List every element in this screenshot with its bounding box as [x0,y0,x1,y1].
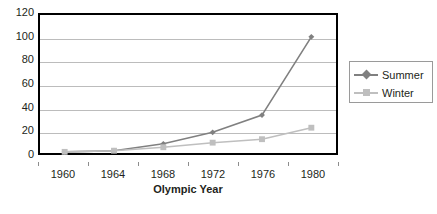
legend-marker-square-icon [354,87,378,99]
data-point-winter-1980 [308,125,314,131]
y-tick-label: 20 [4,125,34,136]
y-axis: 020406080100120 [0,13,34,155]
series-canvas [40,15,336,153]
legend-item-winter: Winter [350,84,432,102]
data-point-winter-1964 [111,148,117,154]
legend-item-summer: Summer [350,66,432,84]
x-tick-label: 1976 [235,168,291,181]
y-tick-label: 40 [4,102,34,113]
x-axis: 196019641968197219761980 [38,162,338,178]
x-tick-mark [288,162,289,166]
x-tick-label: 1980 [285,168,341,181]
data-point-winter-1968 [160,144,166,150]
y-tick-label: 0 [4,149,34,160]
x-tick-label: 1968 [135,168,191,181]
x-tick-mark [38,162,39,166]
x-tick-label: 1960 [35,168,91,181]
line-chart: 020406080100120 196019641968197219761980… [0,0,437,214]
data-point-winter-1960 [62,149,68,155]
series-line-summer [65,37,312,152]
x-tick-mark [138,162,139,166]
data-point-winter-1976 [259,136,265,142]
x-tick-label: 1964 [85,168,141,181]
legend-marker-diamond-icon [354,69,378,81]
square-marker-icon [363,89,370,96]
x-tick-mark [88,162,89,166]
x-tick-label: 1972 [185,168,241,181]
y-tick-label: 60 [4,78,34,89]
data-point-summer-1972 [210,129,216,135]
legend-label-summer: Summer [378,69,424,81]
y-tick-label: 120 [4,7,34,18]
x-axis-title: Olympic Year [38,183,338,196]
y-tick-label: 80 [4,54,34,65]
diamond-marker-icon [362,70,372,80]
x-tick-mark [188,162,189,166]
x-tick-mark [338,162,339,166]
x-tick-mark [238,162,239,166]
series-line-winter [65,128,312,152]
data-point-winter-1972 [210,140,216,146]
plot-area [38,13,338,155]
chart-legend: Summer Winter [349,61,433,103]
y-tick-label: 100 [4,31,34,42]
legend-label-winter: Winter [378,87,414,99]
